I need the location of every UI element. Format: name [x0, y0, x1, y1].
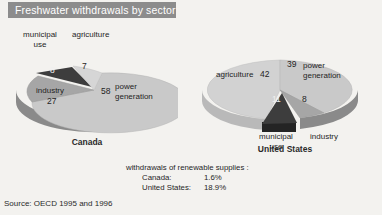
united-states-pie-svg: [196, 48, 368, 144]
footnote-key-united-states: United States:: [142, 183, 204, 193]
source-line: Source: OECD 1995 and 1996: [4, 199, 113, 208]
us-power-line2: generation: [303, 71, 341, 80]
canada-label-power-generation: power generation: [115, 82, 153, 101]
charts-container: municipal use agriculture 8 7 industry 2…: [0, 20, 382, 160]
page-title: Freshwater withdrawals by sector: [15, 4, 176, 16]
country-label-canada: Canada: [52, 137, 122, 147]
canada-power-line2: generation: [115, 92, 153, 101]
us-value-industry: 8: [302, 95, 307, 105]
canada-label-municipal-use: municipal use: [12, 30, 68, 49]
canada-municipal-line2: use: [34, 40, 47, 49]
pie-chart-united-states: agriculture 42 39 power generation 11 8 …: [196, 48, 368, 144]
us-municipal-line1: municipal: [259, 132, 293, 141]
us-label-agriculture: agriculture: [216, 70, 253, 80]
us-power-line1: power: [303, 61, 325, 70]
canada-municipal-line1: municipal: [23, 30, 57, 39]
canada-value-power-generation: 58: [101, 87, 110, 97]
figure-title-banner: Freshwater withdrawals by sector: [8, 2, 176, 18]
canada-value-municipal-use: 8: [50, 66, 55, 76]
us-value-power-generation: 39: [287, 60, 296, 70]
footnote-value-canada: 1.6%: [204, 173, 222, 183]
footnote-block: withdrawals of renewable supplies : Cana…: [118, 163, 318, 193]
us-label-industry: industry: [310, 132, 338, 142]
us-value-agriculture: 42: [260, 70, 269, 80]
canada-label-industry: industry: [36, 86, 64, 96]
pie-chart-canada: municipal use agriculture 8 7 industry 2…: [10, 42, 178, 134]
canada-label-agriculture: agriculture: [72, 30, 109, 40]
footnote-row-canada: Canada: 1.6%: [142, 173, 318, 183]
canada-value-agriculture: 7: [82, 62, 87, 72]
footnote-row-united-states: United States: 18.9%: [142, 183, 318, 193]
footnote-heading: withdrawals of renewable supplies :: [126, 163, 318, 173]
footnote-value-united-states: 18.9%: [204, 183, 226, 193]
us-value-municipal-use: 11: [272, 95, 281, 105]
country-label-united-states: United States: [245, 144, 325, 154]
canada-power-line1: power: [115, 82, 137, 91]
us-label-power-generation: power generation: [303, 61, 341, 80]
canada-value-industry: 27: [47, 97, 56, 107]
figure-root: Freshwater withdrawals by sector: [0, 0, 382, 215]
footnote-key-canada: Canada:: [142, 173, 204, 183]
